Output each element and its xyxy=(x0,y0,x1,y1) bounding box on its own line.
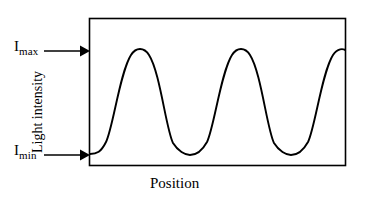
arrow-right-icon-max xyxy=(44,46,90,57)
y-axis-max-label: Imax xyxy=(14,39,39,57)
y-max-subscript: max xyxy=(19,45,39,57)
plot-canvas xyxy=(0,0,385,203)
x-axis-title: Position xyxy=(150,176,199,191)
figure-container: Imax Imin Light intensity Position xyxy=(0,0,385,203)
arrow-right-icon-min xyxy=(44,150,90,161)
y-axis-title: Light intensity xyxy=(31,57,45,167)
